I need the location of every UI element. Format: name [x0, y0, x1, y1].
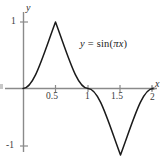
equation-equals-sign: =: [85, 38, 97, 49]
plot-canvas: [0, 0, 165, 156]
equation-close-paren: ): [124, 38, 128, 49]
sine-graph-figure: 0.5 1 1.5 2 1 -1 x y y = sin(πx): [0, 0, 165, 156]
y-tick-label-1: 1: [11, 17, 16, 27]
x-tick-label-1.5: 1.5: [111, 92, 123, 102]
edge-artifact: [0, 84, 3, 89]
y-tick-label-negative-1: -1: [6, 141, 14, 151]
x-tick-label-0.5: 0.5: [46, 92, 58, 102]
y-axis-label: y: [26, 3, 30, 13]
x-tick-label-1: 1: [85, 92, 90, 102]
x-axis-label: x: [155, 79, 159, 89]
x-tick-label-2: 2: [150, 93, 155, 103]
equation-sin-open: sin(: [97, 38, 114, 49]
curve-equation-label: y = sin(πx): [80, 39, 127, 50]
